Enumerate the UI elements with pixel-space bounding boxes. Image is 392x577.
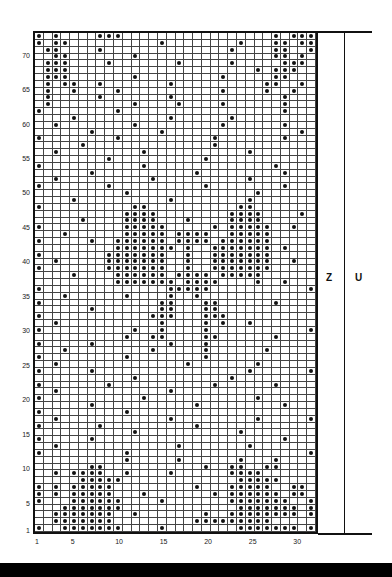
stitch-cell	[272, 279, 281, 286]
stitch-cell	[298, 436, 307, 443]
stitch-cell	[132, 170, 141, 177]
stitch-cell	[149, 293, 158, 300]
stitch-cell	[53, 231, 62, 238]
stitch-cell	[202, 368, 211, 375]
stitch-cell	[228, 395, 237, 402]
stitch-cell	[237, 95, 246, 102]
stitch-cell	[88, 67, 97, 74]
stitch-cell	[158, 409, 167, 416]
stitch-cell	[70, 149, 79, 156]
stitch-cell	[298, 395, 307, 402]
stitch-cell-dot	[272, 464, 281, 471]
stitch-cell	[61, 156, 70, 163]
stitch-cell	[114, 197, 123, 204]
stitch-cell	[184, 375, 193, 382]
stitch-cell	[96, 388, 105, 395]
stitch-cell	[184, 204, 193, 211]
stitch-cell	[79, 388, 88, 395]
stitch-cell-dot	[149, 279, 158, 286]
stitch-cell	[44, 279, 53, 286]
stitch-cell	[167, 74, 176, 81]
stitch-cell	[88, 149, 97, 156]
stitch-cell	[132, 402, 141, 409]
stitch-cell	[44, 170, 53, 177]
stitch-cell	[158, 388, 167, 395]
stitch-cell-dot	[246, 245, 255, 252]
stitch-cell-dot	[184, 286, 193, 293]
stitch-cell-dot	[263, 252, 272, 259]
stitch-cell	[184, 197, 193, 204]
stitch-cell	[281, 423, 290, 430]
stitch-cell	[79, 245, 88, 252]
stitch-cell	[263, 211, 272, 218]
stitch-cell	[237, 436, 246, 443]
stitch-cell	[53, 265, 62, 272]
stitch-cell	[61, 286, 70, 293]
stitch-cell-dot	[272, 505, 281, 512]
stitch-cell	[53, 525, 62, 532]
stitch-cell	[281, 33, 290, 40]
stitch-cell	[184, 470, 193, 477]
stitch-cell	[246, 115, 255, 122]
stitch-cell	[281, 347, 290, 354]
stitch-cell	[167, 334, 176, 341]
stitch-cell	[114, 423, 123, 430]
y-tick-label: 20	[14, 396, 30, 403]
stitch-cell-dot	[255, 272, 264, 279]
stitch-cell	[202, 67, 211, 74]
stitch-cell	[237, 47, 246, 54]
stitch-cell-dot	[132, 327, 141, 334]
stitch-cell	[307, 320, 316, 327]
stitch-cell-dot	[79, 484, 88, 491]
stitch-cell-dot	[61, 511, 70, 518]
stitch-cell	[193, 388, 202, 395]
stitch-cell	[237, 67, 246, 74]
stitch-cell	[158, 341, 167, 348]
stitch-cell	[290, 347, 299, 354]
stitch-cell	[149, 60, 158, 67]
stitch-cell	[149, 470, 158, 477]
stitch-cell	[202, 211, 211, 218]
stitch-cell	[70, 95, 79, 102]
stitch-cell	[290, 81, 299, 88]
stitch-cell	[70, 436, 79, 443]
stitch-cell-dot	[88, 477, 97, 484]
stitch-cell	[140, 286, 149, 293]
stitch-cell	[193, 300, 202, 307]
stitch-cell	[193, 177, 202, 184]
stitch-cell	[184, 115, 193, 122]
stitch-cell	[70, 300, 79, 307]
stitch-cell	[79, 382, 88, 389]
stitch-cell	[44, 183, 53, 190]
stitch-cell	[132, 382, 141, 389]
stitch-cell	[184, 300, 193, 307]
stitch-cell	[53, 252, 62, 259]
x-tick-label: 5	[71, 538, 75, 545]
stitch-cell	[281, 163, 290, 170]
stitch-cell	[61, 245, 70, 252]
stitch-cell	[237, 306, 246, 313]
stitch-cell	[263, 368, 272, 375]
stitch-cell	[61, 88, 70, 95]
stitch-cell	[149, 361, 158, 368]
stitch-cell	[88, 211, 97, 218]
stitch-cell	[149, 368, 158, 375]
stitch-cell	[114, 101, 123, 108]
stitch-cell-dot	[105, 382, 114, 389]
stitch-cell	[219, 149, 228, 156]
stitch-cell	[228, 170, 237, 177]
stitch-cell	[246, 354, 255, 361]
stitch-cell	[70, 306, 79, 313]
stitch-cell	[307, 183, 316, 190]
stitch-cell-dot	[290, 505, 299, 512]
stitch-cell	[158, 122, 167, 129]
stitch-cell-dot	[88, 498, 97, 505]
stitch-cell	[298, 259, 307, 266]
stitch-cell	[307, 54, 316, 61]
stitch-cell	[79, 136, 88, 143]
stitch-cell	[167, 224, 176, 231]
stitch-cell	[53, 108, 62, 115]
stitch-cell	[176, 361, 185, 368]
stitch-cell	[176, 450, 185, 457]
stitch-cell	[149, 47, 158, 54]
